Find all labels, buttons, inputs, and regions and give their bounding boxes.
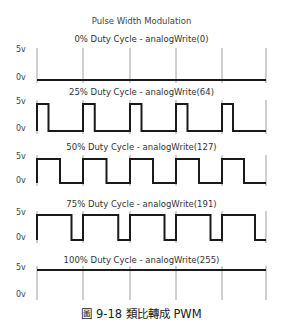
figure-caption: 圖 9-18 類比轉成 PWM bbox=[0, 305, 283, 321]
pwm-waveform bbox=[37, 159, 266, 183]
pwm-waveform bbox=[37, 215, 266, 240]
pwm-waveforms bbox=[0, 0, 283, 336]
pwm-waveform bbox=[37, 104, 266, 131]
